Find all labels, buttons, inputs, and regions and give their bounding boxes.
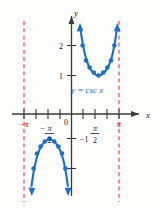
- curve-lower-arrow-left: [28, 188, 35, 197]
- neg-pi-2-numerator: π: [47, 124, 52, 133]
- data-point: [96, 73, 101, 78]
- data-point: [43, 139, 48, 144]
- curve-lower-arrow-right: [65, 188, 72, 197]
- pi-2-denominator: 2: [93, 136, 97, 145]
- chart-canvas: y x 2 1 −1 0 −π − π 2 π 2 π y = csc x: [0, 0, 159, 210]
- data-point: [52, 139, 57, 144]
- neg-pi-2-denominator: 2: [48, 136, 52, 145]
- data-point: [87, 65, 92, 70]
- curve-upper-path: [81, 29, 117, 76]
- data-point: [84, 58, 89, 63]
- data-point: [80, 43, 85, 48]
- x-tick-label-neg-pi-over-2: − π 2: [40, 124, 54, 145]
- data-point: [112, 43, 117, 48]
- csc-graph-figure: y x 2 1 −1 0 −π − π 2 π 2 π y = csc x: [0, 0, 159, 210]
- y-tick-label-neg-1: −1: [80, 135, 89, 144]
- data-point: [31, 166, 36, 171]
- x-axis-arrowhead: [131, 111, 139, 117]
- x-tick-label-pi-over-2: π 2: [91, 124, 100, 145]
- curve-lower-path: [32, 140, 68, 187]
- curve-upper-points: [80, 43, 116, 78]
- y-tick-label-2: 2: [59, 42, 63, 51]
- data-point: [35, 151, 40, 156]
- x-axis-label: x: [145, 110, 150, 120]
- data-point: [38, 144, 43, 149]
- x-tick-label-pi: π: [117, 120, 122, 129]
- curve-upper-branch: [77, 23, 121, 78]
- curve-lower-branch: [28, 136, 71, 196]
- pi-2-numerator: π: [93, 124, 98, 133]
- y-tick-label-1: 1: [59, 72, 63, 81]
- data-point: [101, 70, 106, 75]
- y-axis-label: y: [73, 8, 78, 18]
- data-point: [92, 70, 97, 75]
- data-point: [63, 166, 68, 171]
- data-point: [105, 65, 110, 70]
- data-point: [60, 151, 65, 156]
- x-tick-label-neg-pi: −π: [19, 120, 29, 129]
- data-point: [109, 58, 114, 63]
- origin-label: 0: [64, 118, 68, 127]
- curve-equation-label: y = csc x: [70, 85, 103, 95]
- curve-upper-arrow-left: [77, 23, 84, 32]
- curve-upper-arrow-right: [114, 23, 121, 32]
- neg-pi-2-sign: −: [40, 124, 45, 133]
- data-point: [56, 144, 61, 149]
